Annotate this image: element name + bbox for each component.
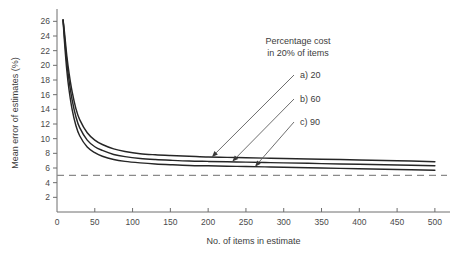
x-axis-ticks: 050100150200250300350400450500 <box>55 208 443 227</box>
x-tick-label: 350 <box>314 217 328 227</box>
x-tick-label: 250 <box>239 217 253 227</box>
x-tick-label: 400 <box>352 217 366 227</box>
leader-line-c <box>259 122 294 162</box>
y-tick-label: 24 <box>41 31 51 41</box>
x-tick-label: 300 <box>277 217 291 227</box>
y-axis-ticks: 2468101214161820222426 <box>41 16 57 202</box>
y-tick-label: 22 <box>41 46 51 56</box>
y-tick-label: 10 <box>41 134 51 144</box>
y-tick-label: 16 <box>41 90 51 100</box>
x-axis-title: No. of items in estimate <box>206 236 300 246</box>
annotation-line-1: Percentage cost <box>265 36 331 46</box>
leader-line-b <box>237 99 294 157</box>
y-tick-label: 2 <box>45 192 50 202</box>
series-label-c: c) 90 <box>300 117 320 127</box>
series-label-a: a) 20 <box>300 70 321 80</box>
leader-line-a <box>216 75 294 153</box>
y-tick-label: 18 <box>41 75 51 85</box>
y-tick-label: 26 <box>41 16 51 26</box>
y-tick-label: 4 <box>45 178 50 188</box>
curve-c <box>63 20 435 170</box>
x-tick-label: 50 <box>90 217 100 227</box>
annotation-line-2: in 20% of items <box>267 48 329 58</box>
x-tick-label: 0 <box>55 217 60 227</box>
y-tick-label: 8 <box>45 148 50 158</box>
y-axis-title: Mean error of estimates (%) <box>10 57 20 169</box>
x-tick-label: 450 <box>390 217 404 227</box>
y-tick-label: 12 <box>41 119 51 129</box>
data-curves <box>63 20 435 170</box>
x-tick-label: 200 <box>201 217 215 227</box>
curve-a <box>63 20 435 162</box>
chart-figure: 2468101214161820222426 05010015020025030… <box>0 0 460 255</box>
x-tick-label: 150 <box>163 217 177 227</box>
x-tick-label: 500 <box>428 217 442 227</box>
y-tick-label: 14 <box>41 104 51 114</box>
line-chart: 2468101214161820222426 05010015020025030… <box>0 0 460 255</box>
x-tick-label: 100 <box>125 217 139 227</box>
curve-b <box>63 20 435 166</box>
y-tick-label: 6 <box>45 163 50 173</box>
y-tick-label: 20 <box>41 60 51 70</box>
series-label-b: b) 60 <box>300 94 321 104</box>
annotation-leader-lines <box>212 75 294 167</box>
